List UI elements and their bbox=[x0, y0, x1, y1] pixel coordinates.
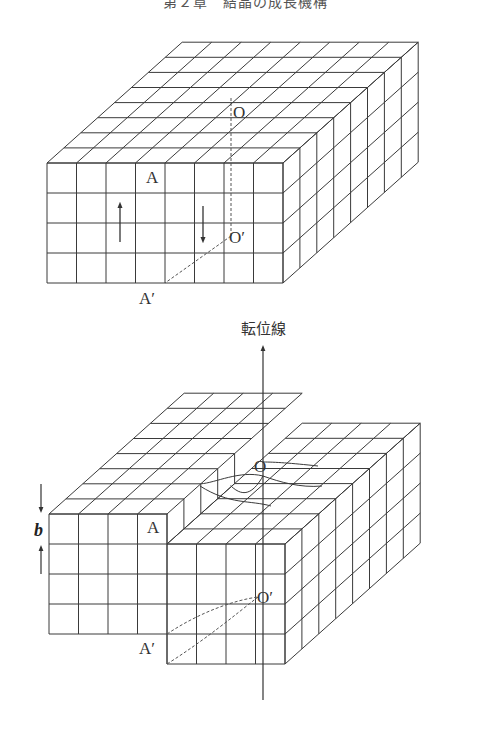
label-O-prime-bottom: O′ bbox=[257, 588, 273, 607]
label-O-prime-top: O′ bbox=[229, 228, 245, 247]
dislocation-line-label: 転位線 bbox=[241, 320, 286, 338]
label-A-prime-top: A′ bbox=[139, 289, 155, 308]
dislocation-diagram: A O O′ A′ 転位線 A O O′ A′ b bbox=[0, 0, 491, 738]
bottom-dashed-guides bbox=[167, 597, 258, 664]
label-O-top: O bbox=[233, 103, 245, 122]
burgers-vector-label: b bbox=[34, 520, 43, 540]
label-A-top: A bbox=[146, 168, 159, 187]
bottom-crystal-block bbox=[49, 393, 420, 664]
label-A-bottom: A bbox=[147, 518, 160, 537]
label-A-prime-bottom: A′ bbox=[139, 639, 155, 658]
top-dashed-guides bbox=[165, 98, 231, 283]
label-O-bottom: O bbox=[254, 457, 266, 476]
